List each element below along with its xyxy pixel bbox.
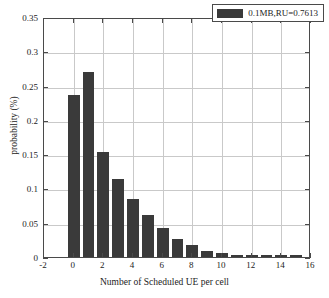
x-tick-mark	[73, 253, 74, 258]
bar	[112, 179, 124, 257]
x-tick-label: 8	[179, 261, 203, 270]
y-axis-title: probability (%)	[9, 66, 20, 186]
y-tick-mark	[305, 258, 310, 259]
x-tick-label: 6	[150, 261, 174, 270]
x-tick-mark	[221, 253, 222, 258]
bar	[97, 152, 109, 257]
y-tick-mark	[43, 52, 48, 53]
bar	[261, 255, 273, 257]
gridline-vertical	[252, 19, 253, 257]
x-tick-mark	[162, 253, 163, 258]
x-axis-title: Number of Scheduled UE per cell	[0, 277, 329, 288]
bar	[290, 255, 302, 257]
chart-figure: 00.050.10.150.20.250.30.35 -202468101214…	[0, 0, 329, 298]
x-tick-mark	[280, 253, 281, 258]
bar	[83, 72, 95, 257]
y-tick-label: 0.35	[0, 14, 38, 23]
gridline-vertical	[163, 19, 164, 257]
x-tick-label: -2	[31, 261, 55, 270]
y-tick-mark	[305, 155, 310, 156]
plot-area	[43, 18, 310, 258]
bar	[172, 239, 184, 257]
x-tick-mark	[310, 253, 311, 258]
gridline-vertical	[222, 19, 223, 257]
y-tick-mark	[43, 189, 48, 190]
x-tick-mark	[132, 18, 133, 23]
x-tick-mark	[191, 253, 192, 258]
x-tick-mark	[191, 18, 192, 23]
y-tick-mark	[305, 224, 310, 225]
x-tick-label: 14	[268, 261, 292, 270]
y-tick-label: 0.3	[0, 48, 38, 57]
bar	[68, 95, 80, 257]
y-tick-mark	[43, 258, 48, 259]
x-tick-label: 12	[239, 261, 263, 270]
x-tick-label: 2	[90, 261, 114, 270]
y-tick-mark	[305, 52, 310, 53]
bar	[216, 253, 228, 257]
x-tick-label: 16	[298, 261, 322, 270]
y-tick-mark	[43, 155, 48, 156]
gridline-vertical	[281, 19, 282, 257]
chart-legend: 0.1MB,RU=0.7613	[212, 4, 324, 22]
y-tick-mark	[43, 121, 48, 122]
legend-color-swatch	[217, 9, 243, 18]
y-tick-mark	[43, 87, 48, 88]
x-tick-mark	[43, 18, 44, 23]
y-tick-label: 0.05	[0, 220, 38, 229]
x-tick-mark	[43, 253, 44, 258]
y-tick-mark	[305, 189, 310, 190]
bar	[275, 255, 287, 257]
gridline-vertical	[192, 19, 193, 257]
bar	[231, 255, 243, 257]
x-tick-mark	[132, 253, 133, 258]
x-tick-mark	[251, 253, 252, 258]
x-tick-mark	[162, 18, 163, 23]
bar	[186, 245, 198, 257]
legend-label: 0.1MB,RU=0.7613	[248, 8, 318, 18]
gridline-horizontal	[44, 53, 309, 54]
bar	[142, 215, 154, 258]
x-tick-label: 0	[61, 261, 85, 270]
bar	[201, 251, 213, 257]
x-tick-label: 10	[209, 261, 233, 270]
x-tick-mark	[102, 253, 103, 258]
x-tick-mark	[73, 18, 74, 23]
y-tick-mark	[305, 87, 310, 88]
y-tick-mark	[43, 224, 48, 225]
y-tick-label: 0.1	[0, 185, 38, 194]
x-tick-label: 4	[120, 261, 144, 270]
x-tick-mark	[102, 18, 103, 23]
y-tick-mark	[305, 121, 310, 122]
bar	[127, 199, 139, 257]
